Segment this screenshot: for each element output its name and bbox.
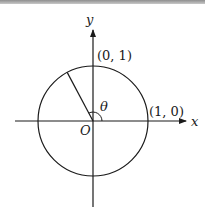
x-axis-label: x — [191, 114, 199, 129]
point-1-0-label: (1, 0) — [149, 104, 184, 119]
theta-label: θ — [100, 99, 108, 114]
unit-circle-diagram: y x O θ (0, 1) (1, 0) — [0, 0, 205, 211]
point-0-1-label: (0, 1) — [97, 48, 132, 63]
y-axis-label: y — [85, 12, 94, 27]
origin-label: O — [80, 123, 91, 138]
radius-line — [67, 72, 93, 121]
